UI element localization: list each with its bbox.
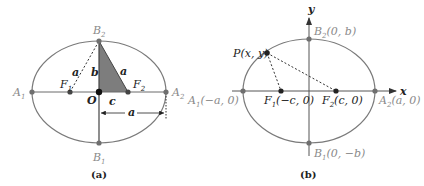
label-a-measure: a — [128, 106, 135, 119]
label-b2: B2 — [92, 24, 106, 39]
point-b2 — [96, 38, 101, 43]
label-a2-b: A2(a, 0) — [378, 94, 421, 109]
ellipse-diagram: A1 A2 B2 B1 F1 F2 O a b a c a (a) y x — [0, 0, 424, 186]
label-a1-b: A1(−a, 0) — [187, 94, 239, 109]
point-a2 — [163, 89, 168, 94]
label-c: c — [109, 95, 116, 108]
label-p: P(x, y) — [232, 47, 268, 60]
label-b1-b: B1(0, −b) — [313, 147, 365, 162]
point-f2 — [125, 89, 130, 94]
label-f1: F1 — [59, 78, 72, 93]
point-f2-b — [333, 88, 338, 93]
label-f1-b: F1(−c, 0) — [263, 94, 314, 109]
label-origin: O — [87, 94, 97, 107]
dashed-p-f2 — [267, 53, 336, 91]
point-f1-b — [278, 88, 283, 93]
point-b1 — [96, 140, 101, 145]
point-a1 — [29, 89, 34, 94]
label-y-axis: y — [307, 3, 316, 16]
point-a2-b — [372, 88, 377, 93]
point-a1-b — [240, 88, 245, 93]
caption-b: (b) — [300, 169, 316, 180]
label-b2-b: B2(0, b) — [313, 25, 356, 40]
label-f2: F2 — [132, 78, 146, 93]
caption-a: (a) — [91, 169, 107, 180]
label-b1: B1 — [92, 151, 106, 166]
label-b: b — [91, 66, 99, 79]
dashed-p-f1 — [267, 53, 281, 91]
point-origin — [96, 89, 102, 95]
point-b2-b — [306, 36, 311, 41]
panel-a: A1 A2 B2 B1 F1 F2 O a b a c a (a) — [12, 24, 185, 180]
label-f2-b: F2(c, 0) — [321, 94, 363, 109]
label-a1: A1 — [12, 86, 25, 101]
panel-b: y x P(x, y) B2(0, b) B1(0, −b) A1(−a, 0)… — [187, 3, 421, 180]
label-a2: A2 — [171, 86, 185, 101]
label-a-right: a — [120, 65, 127, 78]
point-b1-b — [306, 140, 311, 145]
label-a-left: a — [72, 66, 79, 79]
